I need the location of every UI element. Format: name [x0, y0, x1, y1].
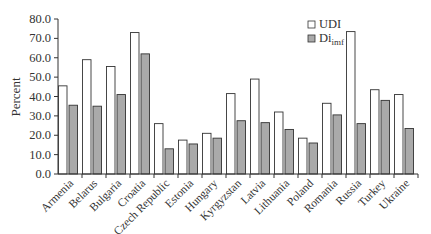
- bar-diimf: [405, 128, 414, 174]
- bar-udi: [131, 33, 140, 174]
- bar-udi: [155, 124, 164, 174]
- bar-diimf: [69, 105, 78, 174]
- x-axis: ArmeniaBelarusBulgariaCroatiaCzech Repub…: [38, 174, 418, 234]
- bar-diimf: [357, 124, 366, 174]
- bar-diimf: [93, 106, 102, 174]
- bar-diimf: [165, 149, 174, 174]
- legend-label-diimf: Diimf: [319, 31, 344, 47]
- bar-udi: [227, 94, 236, 174]
- bar-chart: 0.010.020.030.040.050.060.070.080.0 Arme…: [0, 0, 431, 234]
- bar-udi: [275, 112, 284, 174]
- y-axis: 0.010.020.030.040.050.060.070.080.0: [29, 12, 58, 181]
- y-tick-label: 20.0: [29, 128, 51, 142]
- y-tick-label: 50.0: [29, 70, 51, 84]
- y-tick-label: 60.0: [29, 51, 51, 65]
- y-tick-label: 30.0: [29, 109, 51, 123]
- bar-diimf: [309, 143, 318, 174]
- bars: [59, 32, 414, 174]
- bar-udi: [251, 79, 260, 174]
- bar-diimf: [141, 54, 150, 174]
- bar-udi: [371, 90, 380, 174]
- bar-diimf: [333, 115, 342, 174]
- bar-udi: [203, 133, 212, 174]
- y-axis-label: Percent: [8, 77, 23, 116]
- y-tick-label: 70.0: [29, 31, 51, 45]
- bar-udi: [299, 138, 308, 174]
- bar-udi: [323, 103, 332, 174]
- bar-udi: [179, 140, 188, 174]
- bar-udi: [59, 86, 68, 174]
- bar-diimf: [261, 123, 270, 174]
- legend: UDI Diimf: [308, 17, 344, 47]
- bar-diimf: [117, 95, 126, 174]
- x-tick-label: Armenia: [38, 177, 75, 214]
- bar-diimf: [381, 100, 390, 174]
- bar-udi: [107, 66, 116, 174]
- y-tick-label: 40.0: [29, 90, 51, 104]
- legend-swatch-diimf: [308, 35, 315, 42]
- y-tick-label: 80.0: [29, 12, 51, 26]
- bar-udi: [347, 32, 356, 174]
- legend-label-udi: UDI: [319, 17, 341, 31]
- bar-diimf: [285, 129, 294, 174]
- y-tick-label: 10.0: [29, 148, 51, 162]
- legend-swatch-udi: [308, 21, 315, 28]
- bar-diimf: [189, 144, 198, 174]
- bar-diimf: [237, 121, 246, 174]
- bar-udi: [83, 60, 92, 174]
- y-tick-label: 0.0: [35, 167, 51, 181]
- bar-udi: [395, 95, 404, 174]
- bar-diimf: [213, 138, 222, 174]
